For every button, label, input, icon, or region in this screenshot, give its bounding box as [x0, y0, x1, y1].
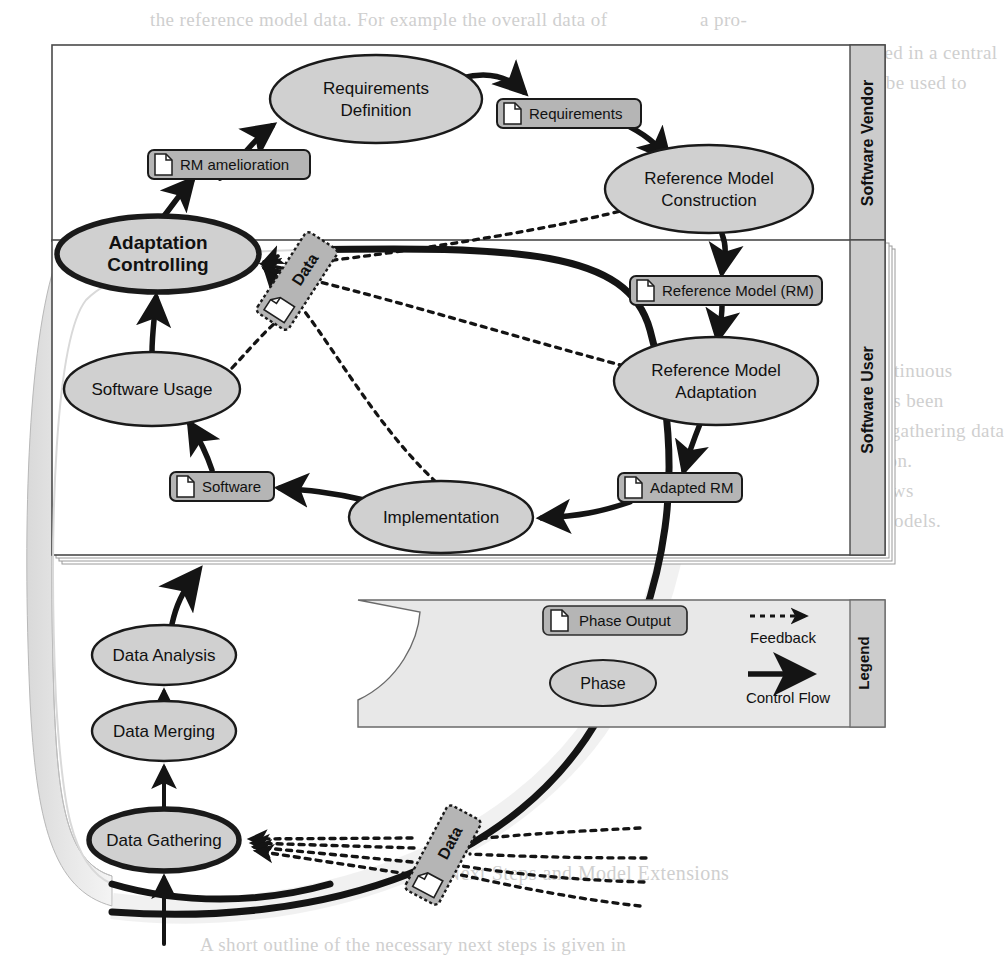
phase-label: Software Usage: [92, 380, 213, 399]
phase-adaptation-controlling[interactable]: AdaptationControlling: [57, 216, 259, 292]
phase-label: Construction: [661, 191, 756, 210]
phase-ellipse: [614, 337, 818, 425]
phase-implementation[interactable]: Implementation: [349, 481, 533, 553]
phase-label: Implementation: [383, 508, 499, 527]
phase-label: Definition: [341, 101, 412, 120]
phase-output-reference-model[interactable]: Reference Model (RM): [630, 276, 822, 305]
legend-title: Legend: [855, 636, 872, 689]
phase-output-requirements[interactable]: Requirements: [497, 99, 641, 128]
phase-output-label: Software: [202, 478, 261, 495]
phase-data-gathering[interactable]: Data Gathering: [89, 809, 239, 871]
phase-output-label: Requirements: [529, 105, 622, 122]
legend-label-phase: Phase: [580, 675, 625, 692]
phase-label: Reference Model: [651, 361, 780, 380]
phase-reference-model-adaptation[interactable]: Reference ModelAdaptation: [614, 337, 818, 425]
document-icon: [155, 154, 172, 175]
phase-ellipse: [605, 145, 813, 233]
legend-label-control-flow: Control Flow: [746, 689, 830, 706]
phase-output-rm-amelioration[interactable]: RM amelioration: [148, 150, 310, 179]
phase-data-merging[interactable]: Data Merging: [92, 701, 236, 761]
legend-item-phase: Phase: [550, 660, 656, 706]
lane-label-software-user: Software User: [859, 346, 876, 454]
phase-output-software[interactable]: Software: [170, 472, 274, 501]
flow-rm-construction-to-reference-model: [722, 234, 725, 272]
phase-output-adapted-rm[interactable]: Adapted RM: [618, 473, 742, 502]
document-icon: [551, 610, 568, 631]
phase-output-label: RM amelioration: [180, 156, 289, 173]
document-icon: [177, 476, 194, 497]
phase-label: Requirements: [323, 79, 429, 98]
phase-data-analysis[interactable]: Data Analysis: [92, 625, 236, 685]
legend-panel: Legend Phase Output Phase Feedback Cont: [358, 600, 885, 727]
phase-label: Data Gathering: [106, 831, 221, 850]
document-icon: [504, 103, 521, 124]
legend-label-feedback: Feedback: [750, 629, 816, 646]
phase-reference-model-construction[interactable]: Reference ModelConstruction: [605, 145, 813, 233]
phase-software-usage[interactable]: Software Usage: [64, 352, 240, 426]
feedback-external-to-data-bottom-3: [462, 866, 644, 882]
phase-label: Reference Model: [644, 169, 773, 188]
phase-label: Controlling: [107, 254, 208, 275]
feedback-external-to-data-bottom-4: [456, 874, 640, 906]
document-icon: [637, 280, 654, 301]
phase-label: Adaptation: [108, 232, 207, 253]
document-icon: [625, 477, 642, 498]
flow-data-analysis-to-outer-loop: [172, 574, 196, 624]
phase-label: Data Merging: [113, 722, 215, 741]
phase-ellipse: [270, 55, 482, 143]
legend-label-phase-output: Phase Output: [579, 612, 672, 629]
phase-label: Adaptation: [675, 383, 756, 402]
legend-item-phase-output: Phase Output: [543, 606, 687, 635]
feedback-into-data-gathering-1: [250, 838, 412, 839]
lane-label-software-vendor: Software Vendor: [859, 80, 876, 206]
phase-requirements-definition[interactable]: RequirementsDefinition: [270, 55, 482, 143]
phase-output-label: Adapted RM: [650, 479, 733, 496]
feedback-into-data-gathering-2: [252, 843, 414, 848]
feedback-external-to-data-bottom-2: [470, 854, 646, 858]
phase-output-label: Reference Model (RM): [662, 282, 814, 299]
phase-label: Data Analysis: [113, 646, 216, 665]
